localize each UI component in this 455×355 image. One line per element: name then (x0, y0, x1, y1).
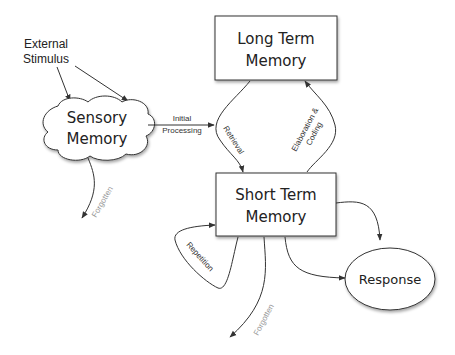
svg-text:Initial: Initial (173, 114, 192, 123)
svg-text:Memory: Memory (245, 52, 306, 70)
short-term-memory-node[interactable]: Short Term Memory (216, 173, 336, 236)
svg-text:External: External (24, 37, 68, 51)
svg-text:Response: Response (359, 272, 421, 287)
repetition-label: Repetition (185, 240, 216, 273)
retrieval-label: Retrieval (221, 124, 245, 156)
svg-text:Memory: Memory (66, 130, 127, 148)
svg-text:Processing: Processing (162, 126, 202, 135)
response-node[interactable]: Response (345, 248, 435, 310)
svg-text:Memory: Memory (245, 208, 306, 226)
svg-text:Sensory: Sensory (67, 109, 127, 127)
stm-to-response-arrow-top (336, 202, 380, 240)
stm-to-response-arrow-bottom (285, 237, 345, 278)
elaboration-label: Elaboration & Coding (290, 106, 330, 158)
retrieval-arrow (216, 81, 250, 172)
external-stimulus-label: External Stimulus (23, 37, 69, 66)
long-term-memory-node[interactable]: Long Term Memory (215, 16, 337, 80)
memory-model-diagram: External Stimulus Sensory Memory Forgott… (0, 0, 455, 355)
svg-text:Stimulus: Stimulus (23, 52, 69, 66)
sensory-memory-node[interactable]: Sensory Memory (43, 96, 155, 160)
svg-text:Short Term: Short Term (235, 186, 316, 204)
svg-text:Long Term: Long Term (237, 30, 314, 48)
stimulus-arrow-1 (57, 67, 70, 101)
